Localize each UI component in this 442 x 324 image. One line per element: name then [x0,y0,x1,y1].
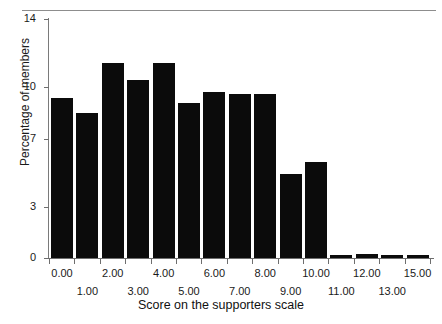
x-axis-tick [201,259,202,264]
x-axis-tick-label: 11.00 [321,286,361,297]
bar [407,255,429,258]
x-axis-tick [303,259,304,264]
x-axis-tick-label: 4.00 [144,268,184,279]
x-axis-tick [379,259,380,264]
bar [229,94,251,258]
x-axis-tick [354,259,355,264]
y-axis-tick-label: 0 [2,252,36,263]
bar [305,162,327,258]
y-axis-tick [44,207,49,208]
bar [280,174,302,258]
x-axis-tick [49,259,50,264]
x-axis-tick [227,259,228,264]
x-axis-tick [430,259,431,264]
y-axis-tick [44,19,49,20]
x-axis-tick [405,259,406,264]
bar [178,103,200,258]
bar [102,63,124,258]
x-axis-tick [176,259,177,264]
bar [381,255,403,258]
x-axis-tick-label: 10.00 [296,268,336,279]
y-axis-tick [44,139,49,140]
x-axis-tick [328,259,329,264]
x-axis-tick [252,259,253,264]
bar [330,255,352,258]
y-axis-title: Percentage of members [18,17,32,187]
x-axis-tick [74,259,75,264]
x-axis-tick-label: 2.00 [93,268,133,279]
y-axis-tick [44,87,49,88]
bar [127,80,149,258]
x-axis-title: Score on the supporters scale [0,298,442,312]
x-axis-line [44,258,434,259]
bar-chart: 0371014 0.001.002.003.004.005.006.007.00… [0,0,442,324]
x-axis-tick-label: 15.00 [398,268,438,279]
x-axis-tick-label: 8.00 [245,268,285,279]
x-axis-tick-label: 5.00 [169,286,209,297]
x-axis-tick-label: 7.00 [220,286,260,297]
x-axis-tick-label: 1.00 [67,286,107,297]
x-axis-tick [151,259,152,264]
x-axis-tick-label: 12.00 [347,268,387,279]
y-axis-tick-label: 3 [2,201,36,212]
x-axis-tick-label: 3.00 [118,286,158,297]
bar [203,92,225,258]
bar [356,254,378,258]
x-axis-tick-label: 9.00 [271,286,311,297]
x-axis-tick [278,259,279,264]
bar [51,98,73,258]
x-axis-tick-label: 0.00 [42,268,82,279]
x-axis-tick [125,259,126,264]
bar [76,113,98,258]
bar [254,94,276,258]
bar [153,63,175,258]
x-axis-tick-label: 13.00 [372,286,412,297]
figure-canvas: 0371014 0.001.002.003.004.005.006.007.00… [0,0,442,324]
x-axis-tick-label: 6.00 [194,268,234,279]
x-axis-tick [100,259,101,264]
